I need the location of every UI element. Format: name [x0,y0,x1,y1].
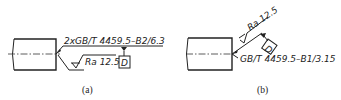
roughness-bar-b [239,34,245,38]
caption-b: (b) [257,85,268,96]
caption-a: (a) [82,85,93,96]
leader-incline-b [232,33,262,54]
callout-text-a: 2xGB/T 4459.5–B2/6.3 [64,36,165,46]
figure-b: GB/T 4459.5–B1/3.15 Ra 12.5 D (b) [186,4,336,96]
callout-text-b: GB/T 4459.5–B1/3.15 [240,54,336,64]
figure-a: 2xGB/T 4459.5–B2/6.3 Ra 12.5 D (a) [8,36,165,96]
leader-line-a [56,46,163,54]
roughness-text-b: Ra 12.5 [245,4,279,32]
drawing-canvas: 2xGB/T 4459.5–B2/6.3 Ra 12.5 D (a) GB/T … [0,0,341,100]
break-line-a [13,39,15,70]
leader-lower-b [232,54,238,58]
datum-triangle-a [121,47,127,51]
roughness-text-a: Ra 12.5 [85,57,120,67]
leader-arrow-a [56,49,61,54]
datum-letter-a: D [121,58,128,68]
shaft-outline-a [14,39,56,70]
